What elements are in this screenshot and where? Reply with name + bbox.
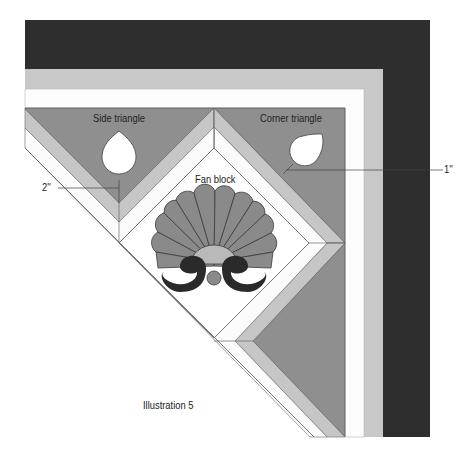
measure-side-label: 2''	[42, 181, 51, 193]
corner-triangle-label: Corner triangle	[260, 112, 322, 124]
fan-block-label: Fan block	[195, 173, 236, 185]
fan-base-circle-icon	[207, 271, 221, 285]
quilt-corner-diagram	[0, 0, 476, 459]
caption: Illustration 5	[143, 399, 193, 411]
measure-corner-label: 1''	[444, 163, 453, 175]
side-triangle-label: Side triangle	[93, 112, 145, 124]
